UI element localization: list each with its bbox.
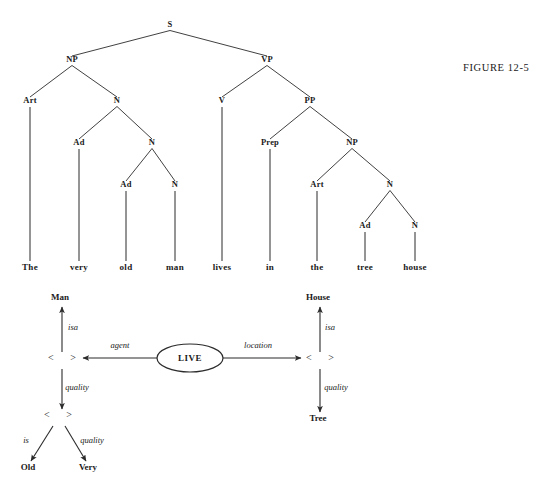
tree-edge: [267, 66, 310, 98]
tree-node-n: N: [172, 179, 179, 189]
parse-tree-words: Theveryoldmanlivesinthetreehouse: [22, 262, 427, 272]
concept-node-very[interactable]: Very: [79, 462, 98, 472]
tree-word-tree: tree: [357, 262, 373, 272]
concept-node-man[interactable]: Man: [51, 292, 69, 302]
tree-edge: [270, 107, 310, 140]
tree-word-lives: lives: [213, 262, 232, 272]
parse-tree-nodes: SNPVPArtNVPPAdNPrepNPAdNArtNAdN: [23, 19, 419, 230]
tree-node-np: NP: [346, 137, 358, 147]
tree-node-s: S: [168, 19, 173, 29]
case-frame-cf-adj[interactable]: < >: [44, 409, 79, 420]
tree-node-prep: Prep: [261, 137, 279, 147]
figure-caption: FIGURE 12-5: [463, 62, 529, 73]
concept-node-tree[interactable]: Tree: [309, 413, 326, 423]
arc-quality-place-label: quality: [324, 382, 348, 392]
tree-node-ad: Ad: [359, 220, 370, 230]
tree-node-art: Art: [310, 179, 323, 189]
tree-node-n: N: [387, 179, 394, 189]
tree-edge: [390, 191, 415, 223]
tree-word-in: in: [266, 262, 274, 272]
semantic-network-arc-labels: isaagentlocationisaqualityqualityisquali…: [23, 322, 348, 445]
tree-edge: [126, 149, 152, 182]
tree-node-v: V: [219, 95, 226, 105]
tree-edge: [352, 149, 390, 182]
tree-word-house: house: [403, 262, 427, 272]
tree-node-pp: PP: [305, 95, 316, 105]
arc-location-label: location: [244, 340, 272, 350]
tree-edge: [365, 191, 390, 223]
arc-is-old-label: is: [23, 435, 29, 445]
live-label: LIVE: [178, 353, 202, 363]
arc-isa-house-label: isa: [325, 322, 335, 332]
arc-quality-very-label: quality: [80, 435, 104, 445]
tree-node-vp: VP: [261, 54, 273, 64]
figure-page: SNPVPArtNVPPAdNPrepNPAdNArtNAdN Theveryo…: [0, 0, 541, 502]
tree-edge: [170, 31, 267, 57]
tree-edge: [117, 107, 152, 140]
case-frame-cf-place[interactable]: < >: [306, 352, 341, 363]
arc-quality-man-label: quality: [65, 382, 89, 392]
parse-tree-terminal-stems: [30, 107, 415, 261]
predicate-node-live[interactable]: LIVE: [157, 344, 223, 372]
concept-node-old[interactable]: Old: [21, 462, 36, 472]
tree-edge: [72, 66, 117, 98]
tree-word-very: very: [70, 262, 88, 272]
tree-edge: [152, 149, 175, 182]
tree-edge: [310, 107, 352, 140]
tree-edge: [72, 31, 170, 57]
tree-node-n: N: [412, 220, 419, 230]
tree-word-the: The: [22, 262, 38, 272]
tree-node-ad: Ad: [73, 137, 84, 147]
tree-edge: [222, 66, 267, 98]
tree-node-np: NP: [66, 54, 78, 64]
case-frame-cf-man[interactable]: < >: [48, 352, 83, 363]
arc-agent-label: agent: [111, 340, 131, 350]
tree-edge: [317, 149, 352, 182]
tree-word-the: the: [311, 262, 324, 272]
figure-canvas: SNPVPArtNVPPAdNPrepNPAdNArtNAdN Theveryo…: [0, 0, 541, 502]
tree-word-man: man: [166, 262, 184, 272]
concept-node-house[interactable]: House: [306, 292, 330, 302]
tree-node-n: N: [149, 137, 156, 147]
tree-node-n: N: [114, 95, 121, 105]
tree-node-ad: Ad: [120, 179, 131, 189]
tree-word-old: old: [120, 262, 133, 272]
tree-node-art: Art: [23, 95, 36, 105]
tree-edge: [30, 66, 72, 98]
tree-edge: [79, 107, 117, 140]
arc-is-old-line: [31, 426, 53, 461]
arc-isa-man-label: isa: [68, 322, 78, 332]
